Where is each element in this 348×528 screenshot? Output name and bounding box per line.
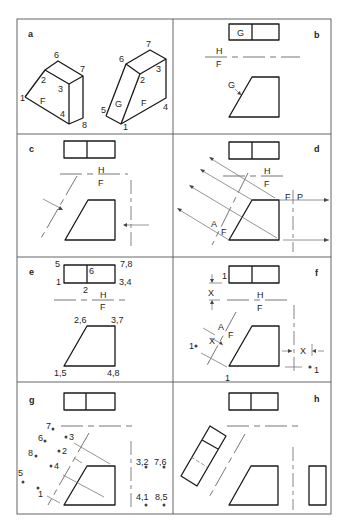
vertex-label: 4,8 bbox=[107, 368, 120, 378]
vertex-label: 3,4 bbox=[119, 277, 132, 287]
fold-label: P bbox=[297, 192, 303, 202]
point-label: 4 bbox=[54, 461, 59, 471]
dimension-label: X bbox=[300, 346, 306, 356]
isometric-solid-left bbox=[25, 61, 83, 124]
profile-view bbox=[309, 466, 326, 505]
front-view bbox=[229, 77, 279, 117]
face-label: F bbox=[141, 98, 147, 108]
vertex-label: 1 bbox=[20, 93, 25, 103]
fold-label: F bbox=[264, 179, 270, 189]
front-view bbox=[65, 200, 115, 240]
panel-label: b bbox=[314, 30, 320, 40]
vertex-label: 2 bbox=[140, 75, 145, 85]
vertex-label: 3 bbox=[156, 64, 161, 74]
vertex-label: 4 bbox=[163, 102, 168, 112]
top-view bbox=[229, 142, 279, 159]
fold-line-auxiliary bbox=[40, 176, 77, 240]
panel-label: c bbox=[29, 144, 34, 154]
projector-line bbox=[210, 158, 275, 198]
point-label: 2 bbox=[62, 446, 67, 456]
arrow-label: G bbox=[228, 80, 235, 90]
vertex-label: 2 bbox=[83, 285, 88, 295]
vertex-label: 3 bbox=[58, 84, 63, 94]
point-label: 5 bbox=[18, 468, 23, 478]
point-label: 1 bbox=[314, 365, 319, 375]
front-view bbox=[64, 326, 115, 366]
panel-c: c H F bbox=[29, 141, 149, 248]
projector-line bbox=[47, 496, 60, 503]
front-view bbox=[229, 466, 278, 505]
point-label: 3,2 bbox=[136, 457, 149, 467]
fold-label: H bbox=[98, 165, 105, 175]
point-label: 6 bbox=[38, 433, 43, 443]
vertex-label: 7 bbox=[146, 39, 151, 49]
panel-f: f 1 X H F A F X 1 1 X 1 bbox=[189, 266, 324, 383]
vertex-label: 5 bbox=[101, 105, 106, 115]
point-label: 7,6 bbox=[154, 457, 167, 467]
projector-line bbox=[201, 170, 252, 200]
fold-label: H bbox=[100, 290, 107, 300]
panel-label: d bbox=[314, 144, 320, 154]
front-view bbox=[64, 466, 115, 505]
fold-label: H bbox=[264, 166, 271, 176]
vertex-label: 2,6 bbox=[74, 315, 87, 325]
point-label: 7 bbox=[46, 421, 51, 431]
fold-line-auxiliary bbox=[212, 173, 248, 245]
fold-label: H bbox=[257, 290, 264, 300]
arrow-icon bbox=[43, 199, 62, 209]
fold-line-auxiliary bbox=[208, 434, 245, 499]
vertex-label: 6 bbox=[54, 50, 59, 60]
panel-a: a 6 7 2 3 1 F 4 8 7 6 3 2 G F 4 5 1 bbox=[20, 29, 168, 132]
face-label: G bbox=[237, 28, 244, 38]
vertex-label: 7 bbox=[80, 64, 85, 74]
dimension-label: X bbox=[209, 336, 215, 346]
point-label: 1 bbox=[38, 489, 43, 499]
point-label: 3 bbox=[69, 432, 74, 442]
panel-e: e 5 6 7,8 1 2 3,4 H F 2,6 3,7 1,5 4,8 bbox=[29, 259, 133, 378]
projector-line bbox=[178, 209, 229, 240]
vertex-label: 1 bbox=[123, 122, 128, 132]
point-marker bbox=[194, 344, 197, 347]
auxiliary-view bbox=[181, 426, 226, 486]
vertex-label: 6 bbox=[89, 266, 94, 276]
fold-label: F bbox=[216, 59, 222, 69]
front-view bbox=[229, 326, 279, 366]
panel-label: a bbox=[28, 29, 34, 39]
vertex-label: 6 bbox=[119, 54, 124, 64]
top-view bbox=[229, 266, 279, 283]
face-label: F bbox=[40, 96, 46, 106]
point-label: 1 bbox=[222, 271, 227, 281]
fold-label: H bbox=[216, 46, 223, 56]
fold-label: F bbox=[100, 302, 106, 312]
front-view bbox=[229, 200, 279, 240]
panel-label: g bbox=[29, 395, 35, 405]
top-view bbox=[229, 393, 278, 410]
fold-label: F bbox=[228, 330, 234, 340]
panel-d: d H F A F F P bbox=[177, 142, 329, 252]
fold-label: A bbox=[211, 219, 217, 229]
vertex-label: 5 bbox=[55, 259, 60, 269]
panel-h: h bbox=[181, 393, 326, 510]
point-label: 8,5 bbox=[155, 492, 168, 502]
projector-line bbox=[190, 186, 277, 238]
vertex-label: 7,8 bbox=[120, 259, 133, 269]
panel-g: g 7 6 8 5 3 2 4 1 3,2 7,6 4,1 8,5 bbox=[18, 393, 168, 508]
vertex-label: 8 bbox=[82, 120, 87, 130]
vertex-label: 3,7 bbox=[111, 315, 124, 325]
isometric-solid-right bbox=[106, 50, 166, 124]
fold-label: F bbox=[98, 178, 104, 188]
panel-label: f bbox=[315, 268, 319, 278]
point-marker bbox=[308, 365, 311, 368]
point-label: 1 bbox=[225, 373, 230, 383]
fold-label: F bbox=[257, 303, 263, 313]
top-view bbox=[64, 393, 115, 410]
projector-line bbox=[74, 458, 82, 463]
projector-line bbox=[63, 475, 104, 497]
dimension-label: X bbox=[208, 288, 214, 298]
vertex-label: 1 bbox=[56, 277, 61, 287]
auxiliary-view-figure: a 6 7 2 3 1 F 4 8 7 6 3 2 G F 4 5 1 bbox=[0, 0, 348, 528]
fold-label: F bbox=[285, 192, 291, 202]
vertex-label: 4 bbox=[60, 109, 65, 119]
face-label: G bbox=[115, 99, 122, 109]
point-label: 4,1 bbox=[136, 492, 149, 502]
